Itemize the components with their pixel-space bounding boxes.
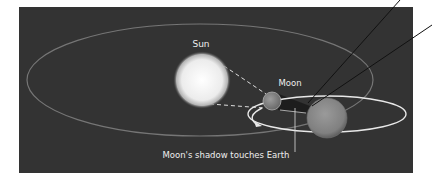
moon-label: Moon — [278, 78, 301, 88]
sun — [173, 51, 231, 109]
sun-label: Sun — [192, 39, 209, 49]
eclipse-diagram: Sun Moon Moon's shadow touches Earth — [0, 0, 434, 180]
moon — [263, 92, 281, 110]
caption-label: Moon's shadow touches Earth — [163, 150, 290, 160]
